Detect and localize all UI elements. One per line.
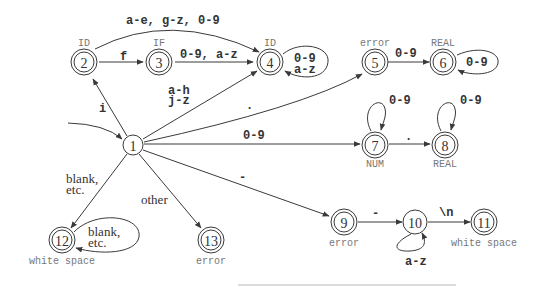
edge-10-10 <box>397 233 424 251</box>
token-label-6: REAL <box>431 38 455 49</box>
state-12: 12 <box>49 227 75 253</box>
svg-text:8: 8 <box>442 139 449 154</box>
svg-text:3: 3 <box>156 56 163 71</box>
svg-text:1: 1 <box>130 139 137 154</box>
label-4-4-line2: a-z <box>294 63 316 77</box>
label-7-7: 0-9 <box>389 94 411 108</box>
label-8-8: 0-9 <box>460 94 482 108</box>
dfa-diagram: 1 2 ID 3 IF 4 ID 5 error 6 REAL 7 NUM <box>0 0 543 287</box>
label-1-12-line2: etc. <box>66 182 84 197</box>
label-5-6: 0-9 <box>395 47 417 61</box>
label-1-13: other <box>141 192 168 207</box>
state-5: 5 <box>362 49 388 75</box>
label-3-4: 0-9, a-z <box>180 48 238 62</box>
svg-text:11: 11 <box>477 216 490 231</box>
label-2-4: a-e, g-z, 0-9 <box>126 14 220 28</box>
svg-text:4: 4 <box>267 56 274 71</box>
token-label-8: REAL <box>433 159 457 170</box>
edge-1-9 <box>143 150 329 216</box>
label-1-4-line2: j-z <box>168 94 190 108</box>
state-7: 7 <box>362 132 388 158</box>
svg-text:6: 6 <box>440 56 447 71</box>
token-label-9: error <box>329 238 359 249</box>
svg-text:13: 13 <box>204 234 218 249</box>
label-2-3: f <box>120 50 127 64</box>
edge-7-7 <box>368 103 386 131</box>
state-13: 13 <box>198 227 224 253</box>
state-1: 1 <box>123 135 143 155</box>
state-2: 2 <box>71 49 97 75</box>
label-7-8: . <box>405 130 412 144</box>
state-11: 11 <box>471 209 497 235</box>
label-6-6: 0-9 <box>466 56 488 70</box>
label-12-12-line2: etc. <box>88 235 106 250</box>
svg-text:5: 5 <box>372 56 379 71</box>
state-4: 4 <box>257 49 283 75</box>
edge-8-8 <box>438 103 456 131</box>
label-1-2: i <box>99 102 106 116</box>
token-label-3: IF <box>153 38 165 49</box>
label-1-9: - <box>239 171 246 185</box>
token-label-7: NUM <box>366 159 384 170</box>
edge-1-13 <box>139 154 201 228</box>
label-9-10: - <box>372 207 379 221</box>
token-label-11: white space <box>451 238 517 249</box>
state-8: 8 <box>432 132 458 158</box>
state-9: 9 <box>331 209 357 235</box>
state-10: 10 <box>403 210 427 234</box>
token-label-5: error <box>360 38 390 49</box>
label-10-11: \n <box>439 206 453 220</box>
token-label-13: error <box>196 256 226 267</box>
svg-text:10: 10 <box>408 216 422 231</box>
svg-text:2: 2 <box>81 56 88 71</box>
start-arrow <box>68 123 122 139</box>
state-6: 6 <box>430 49 456 75</box>
label-1-5: . <box>246 99 253 113</box>
svg-text:9: 9 <box>341 216 348 231</box>
token-label-4: ID <box>264 38 276 49</box>
label-10-10: a-z <box>405 255 427 269</box>
label-1-7: 0-9 <box>243 129 265 143</box>
svg-text:12: 12 <box>55 234 69 249</box>
token-label-12: white space <box>29 256 95 267</box>
state-3: 3 <box>146 49 172 75</box>
svg-text:7: 7 <box>372 139 379 154</box>
token-label-2: ID <box>78 38 90 49</box>
